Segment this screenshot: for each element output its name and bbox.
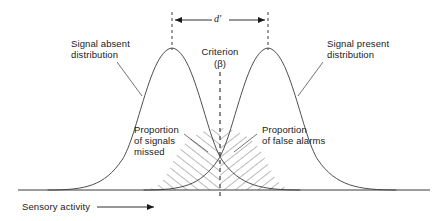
- label-criterion-beta: (β): [190, 58, 250, 69]
- label-proportion-false-alarms: Proportion of false alarms: [262, 124, 325, 146]
- leader-signal-present: [298, 62, 323, 96]
- label-proportion-signals-missed: Proportion of signals missed: [134, 124, 179, 157]
- leader-signal-absent: [117, 62, 142, 96]
- label-criterion: Criterion: [190, 46, 250, 57]
- label-signal-present-distribution: Signal present distribution: [327, 38, 389, 60]
- label-signal-absent-distribution: Signal absent distribution: [71, 38, 130, 60]
- label-d-prime: d′: [214, 13, 221, 24]
- diagram-canvas: [0, 0, 442, 221]
- label-sensory-activity: Sensory activity: [22, 201, 90, 212]
- signal-detection-diagram: Signal absent distribution Signal presen…: [0, 0, 442, 221]
